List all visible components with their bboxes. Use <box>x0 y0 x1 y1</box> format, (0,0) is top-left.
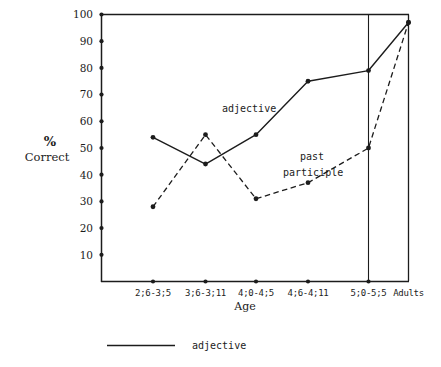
data-point <box>406 20 411 25</box>
y-tick-label: 60 <box>80 115 93 127</box>
y-tick-mark <box>99 199 103 203</box>
y-tick-mark <box>99 226 103 230</box>
y-tick-mark <box>99 66 103 70</box>
x-tick-label: 4;6-4;11 <box>288 288 329 298</box>
x-tick-mark <box>151 279 155 283</box>
data-point <box>254 196 259 201</box>
y-axis-title-correct: Correct <box>25 150 70 164</box>
x-tick-label: 5;0-5;5 <box>351 288 387 298</box>
y-tick-mark <box>99 119 103 123</box>
x-axis: 2;6-3;53;6-3;114;0-4;54;6-4;115;0-5;5Adu… <box>101 279 424 297</box>
annotation-past: past <box>300 151 324 162</box>
y-tick-label: 20 <box>80 222 93 234</box>
x-tick-mark <box>366 279 370 283</box>
y-tick-mark <box>99 39 103 43</box>
data-point <box>254 132 259 137</box>
data-point <box>366 68 371 73</box>
x-tick-mark <box>306 279 310 283</box>
data-point <box>151 204 156 209</box>
data-point <box>151 135 156 140</box>
y-tick-label: 30 <box>80 195 93 207</box>
y-axis-title-percent: % <box>44 134 57 149</box>
y-tick-label: 40 <box>80 169 93 181</box>
data-point <box>366 146 371 151</box>
annotation-adjective: adjective <box>222 103 276 114</box>
x-tick-label: 4;0-4;5 <box>238 288 274 298</box>
x-tick-mark <box>254 279 258 283</box>
x-tick-label: 3;6-3;11 <box>185 288 226 298</box>
y-tick-mark <box>99 253 103 257</box>
y-tick-mark <box>99 173 103 177</box>
y-tick-label: 90 <box>80 35 93 47</box>
chart-background <box>0 0 441 367</box>
y-tick-label: 10 <box>80 249 93 261</box>
y-tick-label: 100 <box>73 8 93 20</box>
data-point <box>203 132 208 137</box>
y-tick-label: 50 <box>80 142 93 154</box>
chart-svg: 102030405060708090100 2;6-3;53;6-3;114;0… <box>0 0 441 367</box>
y-tick-label: 70 <box>80 88 93 100</box>
chart-figure: 102030405060708090100 2;6-3;53;6-3;114;0… <box>0 0 441 367</box>
x-tick-label: 2;6-3;5 <box>135 288 171 298</box>
y-tick-label: 80 <box>80 62 93 74</box>
data-point <box>306 79 311 84</box>
x-tick-mark <box>203 279 207 283</box>
data-point <box>203 162 208 167</box>
legend-label-adjective: adjective <box>192 340 246 351</box>
y-tick-mark <box>99 146 103 150</box>
data-point <box>306 180 311 185</box>
x-tick-label: Adults <box>393 288 424 298</box>
y-tick-mark <box>99 12 103 16</box>
annotation-participle: participle <box>283 167 343 178</box>
x-axis-title: Age <box>233 300 256 313</box>
y-tick-mark <box>99 93 103 97</box>
